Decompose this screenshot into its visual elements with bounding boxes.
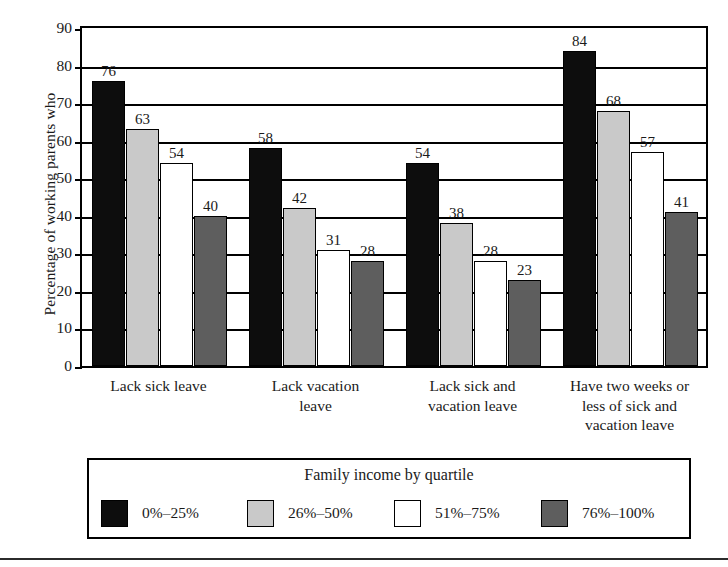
category-label-line: Lack sick and — [394, 376, 551, 396]
legend-item[interactable]: 76%–100% — [541, 498, 654, 528]
legend-swatch-icon — [394, 500, 421, 527]
bar-value-label: 84 — [557, 34, 602, 49]
category-label-line: Have two weeks or — [551, 376, 708, 396]
y-axis-tick-label: 10 — [36, 320, 72, 336]
legend-label: 51%–75% — [435, 504, 500, 522]
category-label: Lack sick andvacation leave — [394, 376, 551, 415]
bar — [406, 163, 439, 366]
bar-value-label: 76 — [86, 64, 131, 79]
category-label-line: Lack sick leave — [80, 376, 237, 396]
y-axis-tick-label: 90 — [36, 20, 72, 36]
y-axis-tick-label: 60 — [36, 133, 72, 149]
legend-label: 0%–25% — [142, 504, 199, 522]
footer-divider — [0, 558, 728, 560]
category-label: Have two weeks orless of sick andvacatio… — [551, 376, 708, 435]
bar — [631, 152, 664, 366]
y-axis-tick-label: 20 — [36, 283, 72, 299]
category-label: Lack vacationleave — [237, 376, 394, 415]
bar-value-label: 63 — [120, 112, 165, 127]
category-label-line: leave — [237, 396, 394, 416]
category-axis-labels: Lack sick leaveLack vacationleaveLack si… — [80, 376, 708, 450]
legend-label: 76%–100% — [582, 504, 654, 522]
y-axis-tick-label: 0 — [36, 358, 72, 374]
category-label-line: Lack vacation — [237, 376, 394, 396]
category-label-line: vacation leave — [394, 396, 551, 416]
legend-items: 0%–25%26%–50%51%–75%76%–100% — [89, 498, 689, 532]
bar — [249, 148, 282, 366]
y-axis-tick-label: 80 — [36, 58, 72, 74]
legend-swatch-icon — [541, 500, 568, 527]
bar — [508, 280, 541, 366]
bar — [126, 129, 159, 366]
bar — [194, 216, 227, 366]
bar — [317, 250, 350, 366]
bars-layer: 76635440584231285438282384685741 — [80, 26, 708, 368]
bar-value-label: 40 — [188, 199, 233, 214]
bar-value-label: 68 — [591, 94, 636, 109]
bar-value-label: 23 — [502, 263, 547, 278]
bar — [665, 212, 698, 366]
bar — [160, 163, 193, 366]
bar-value-label: 57 — [625, 135, 670, 150]
y-axis-tick-label: 40 — [36, 208, 72, 224]
legend: Family income by quartile 0%–25%26%–50%5… — [87, 458, 691, 539]
bar-value-label: 38 — [434, 206, 479, 221]
legend-swatch-icon — [101, 500, 128, 527]
bar-value-label: 54 — [154, 146, 199, 161]
bar-value-label: 42 — [277, 191, 322, 206]
y-axis-tick-label: 30 — [36, 245, 72, 261]
legend-swatch-icon — [247, 500, 274, 527]
bar-value-label: 41 — [659, 195, 704, 210]
legend-item[interactable]: 26%–50% — [247, 498, 353, 528]
category-label: Lack sick leave — [80, 376, 237, 396]
legend-item[interactable]: 0%–25% — [101, 498, 199, 528]
legend-item[interactable]: 51%–75% — [394, 498, 500, 528]
category-label-line: vacation leave — [551, 415, 708, 435]
legend-title: Family income by quartile — [89, 466, 689, 484]
bar-value-label: 28 — [468, 244, 513, 259]
bar — [351, 261, 384, 366]
bar-value-label: 28 — [345, 244, 390, 259]
bar-value-label: 58 — [243, 131, 288, 146]
bar-value-label: 54 — [400, 146, 445, 161]
category-label-line: less of sick and — [551, 396, 708, 416]
bar-chart-figure: Percentage of working parents who 010203… — [0, 0, 728, 567]
y-axis-tick-label: 70 — [36, 95, 72, 111]
legend-label: 26%–50% — [288, 504, 353, 522]
y-axis-tick-label: 50 — [36, 170, 72, 186]
